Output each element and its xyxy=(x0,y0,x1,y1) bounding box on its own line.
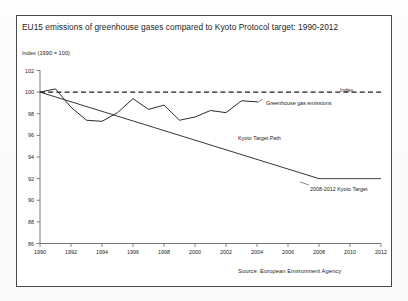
x-tick-label: 2010 xyxy=(344,249,356,255)
x-axis xyxy=(40,244,381,248)
chart-figure: EU15 emissions of greenhouse gases compa… xyxy=(0,0,408,301)
y-tick-label: 86 xyxy=(28,241,34,247)
x-tick-labels: 1990199219941996199820002002200420062008… xyxy=(34,249,387,255)
x-tick-label: 2002 xyxy=(220,249,232,255)
y-tick-label: 98 xyxy=(28,111,34,117)
plot-area: 86889092949698100102 1990199219941996199… xyxy=(0,0,408,301)
x-tick-label: 2008 xyxy=(313,249,325,255)
y-tick-label: 92 xyxy=(28,176,34,182)
emissions-leader-line xyxy=(257,99,263,103)
y-axis xyxy=(37,71,41,244)
x-tick-label: 1994 xyxy=(96,249,108,255)
x-tick-label: 2000 xyxy=(189,249,201,255)
y-tick-label: 90 xyxy=(28,197,34,203)
annotation-kyoto-target: 2008-2012 Kyoto Target xyxy=(310,186,368,192)
x-tick-label: 1996 xyxy=(127,249,139,255)
x-tick-label: 2006 xyxy=(282,249,294,255)
x-tick-label: 2012 xyxy=(375,249,387,255)
x-tick-label: 1992 xyxy=(65,249,77,255)
annotation-emissions: Greenhouse gas emissions xyxy=(266,100,332,106)
x-tick-marks xyxy=(40,244,381,248)
y-tick-label: 88 xyxy=(28,219,34,225)
kyoto-target-leader-line xyxy=(300,182,309,185)
x-tick-label: 1990 xyxy=(34,249,46,255)
annotation-kyoto-target-path: Kyoto Target Path xyxy=(238,135,281,141)
y-tick-labels: 86889092949698100102 xyxy=(25,68,34,247)
series-greenhouse-gas-emissions xyxy=(40,89,257,121)
y-tick-marks xyxy=(37,71,41,244)
y-tick-label: 102 xyxy=(25,68,34,74)
x-tick-label: 2004 xyxy=(251,249,263,255)
y-tick-label: 96 xyxy=(28,132,34,138)
y-tick-label: 94 xyxy=(28,154,34,160)
y-tick-label: 100 xyxy=(25,89,34,95)
x-tick-label: 1998 xyxy=(158,249,170,255)
annotation-index: Index xyxy=(340,87,353,93)
